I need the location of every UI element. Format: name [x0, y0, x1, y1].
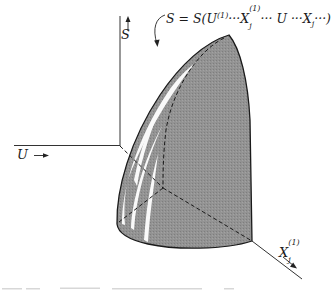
caption-fragment [2, 288, 234, 290]
surface-equation: S = S(U(1)···X(1)j··· U ···Xj···) [166, 7, 331, 32]
x-axis-label-base: X [279, 245, 288, 260]
s-axis-label: S [121, 27, 130, 42]
equation-part: ··· U ···X [260, 11, 311, 26]
surface-body [117, 35, 252, 248]
equation-part: ···X [228, 11, 249, 26]
equation-part: ···) [314, 11, 331, 26]
x-axis-label: X(1)j [279, 241, 300, 266]
equation-leader-arrow-icon [154, 15, 165, 47]
equation-subscript: j [249, 21, 251, 30]
u-axis-arrow-icon [34, 153, 49, 157]
x-axis-label-superscript: (1) [288, 238, 299, 247]
u-axis-label: U [17, 147, 28, 162]
equation-superscript: (1) [217, 11, 228, 20]
x-axis-label-subscript: j [288, 255, 290, 264]
equation-superscript: (1) [249, 4, 260, 13]
equation-part: S = S(U [166, 11, 217, 26]
